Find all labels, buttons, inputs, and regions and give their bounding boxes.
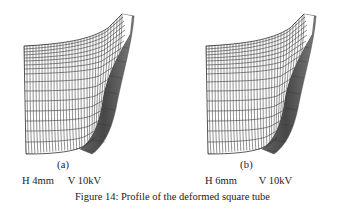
mesh-grid-a [20,10,140,156]
mesh-grid-b [202,10,322,156]
panel-label-b: (b) [240,160,253,171]
mesh-body-a [20,10,140,156]
panel-params-a: H 4mm V 10kV [22,176,101,187]
panel-a-horizontal-param: H 4mm [22,176,54,187]
panel-params-b: H 6mm V 10kV [205,176,292,187]
panel-a-voltage-param: V 10kV [68,176,101,187]
mesh-body-b [202,10,322,156]
mesh-svg-b [172,4,344,156]
panel-b-horizontal-param: H 6mm [205,176,237,187]
mesh-svg-a [2,4,174,156]
figure-caption: Figure 14: Profile of the deformed squar… [0,192,345,203]
figure-container: (a) (b) H 4mm V 10kV H 6mm V 10kV Figure… [0,0,345,210]
panel-b-voltage-param: V 10kV [259,176,292,187]
mesh-plot-a [2,4,174,156]
mesh-plot-b [172,4,344,156]
panel-label-a: (a) [57,160,69,171]
